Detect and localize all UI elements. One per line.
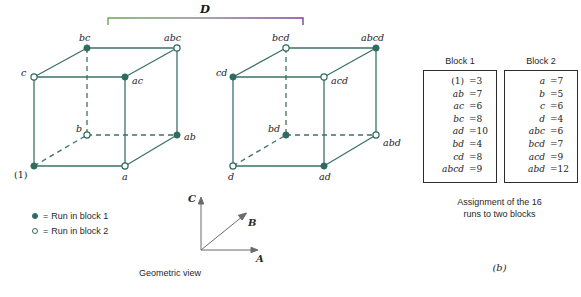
cube-abc-label-ab: ab <box>184 132 196 142</box>
block-2-eq-1: = <box>550 89 558 99</box>
cube-abcd-label-acd: acd <box>331 76 348 86</box>
vertex-ad <box>321 163 327 169</box>
cube-abc-label-bc: bc <box>79 33 90 43</box>
vertex-abc <box>174 45 180 51</box>
block-2-val-5: 7 <box>558 139 571 149</box>
block-1-term-3: bc <box>430 114 469 124</box>
block-2-eq-6: = <box>550 152 558 162</box>
block-2-term-0: a <box>511 76 550 86</box>
blocks-caption: Assignment of the 16 runs to two blocks <box>418 196 581 220</box>
axis-label-b: B <box>248 217 256 228</box>
cube-abcd-label-abd: abd <box>383 138 401 148</box>
block-1-val-2: 6 <box>477 101 490 111</box>
block-1-term-2: ac <box>430 101 469 111</box>
vertex-b <box>84 132 90 138</box>
block-1-row-5: bd = 4 <box>430 139 490 152</box>
cube-abc-label-one: (1) <box>14 170 27 180</box>
block-1-term-1: ab <box>430 89 469 99</box>
block-1-row-0: (1) = 3 <box>430 76 490 89</box>
cube-abcd-vertices <box>230 45 379 169</box>
block-1-term-4: ad <box>430 126 469 136</box>
block-1-title: Block 1 <box>423 56 497 66</box>
block-2-box: a = 7 b = 5 c = 6 d = 4 <box>504 70 578 183</box>
open-circle-icon <box>32 228 38 234</box>
block-1-eq-0: = <box>469 76 477 86</box>
block-1-eq-7: = <box>469 164 477 174</box>
vertex-a <box>122 163 128 169</box>
block-2-row-1: b = 5 <box>511 89 571 102</box>
block-1-term-0: (1) <box>430 76 469 86</box>
block-2-term-7: abd <box>511 164 550 174</box>
block-1-val-0: 3 <box>477 76 490 86</box>
cube-abc-label-a: a <box>122 172 128 182</box>
vertex-bcd <box>283 45 289 51</box>
block-1-row-4: ad = 10 <box>430 126 490 139</box>
cube-abc-label-ac: ac <box>132 76 143 86</box>
block-2-term-4: abc <box>511 126 550 136</box>
block-2-eq-5: = <box>550 139 558 149</box>
block-2-row-3: d = 4 <box>511 114 571 127</box>
block-1-eq-3: = <box>469 114 477 124</box>
cube-abc-label-b: b <box>76 124 82 134</box>
block-2-row-2: c = 6 <box>511 101 571 114</box>
block-2-val-0: 7 <box>558 76 571 86</box>
block-2-val-6: 9 <box>558 152 571 162</box>
legend: = Run in block 1 = Run in block 2 <box>32 208 108 238</box>
panel-letter: (b) <box>418 262 581 273</box>
block-1-eq-4: = <box>469 126 477 136</box>
figure-root: (1) a b ab c ac bc abc d ad bd abd cd ac… <box>0 0 581 297</box>
blocks-caption-line2: runs to two blocks <box>418 208 581 220</box>
block-2-val-3: 4 <box>558 114 571 124</box>
cube-abc-edges <box>34 48 177 166</box>
block-1-row-7: abcd = 9 <box>430 164 490 177</box>
cube-abc-label-abc: abc <box>164 33 181 43</box>
cube-abc-label-c: c <box>21 68 26 78</box>
axis-label-c: C <box>188 193 196 204</box>
block-2-val-2: 6 <box>558 101 571 111</box>
cube-abcd-edges <box>233 48 376 166</box>
cube-abcd-label-ad: ad <box>319 172 331 182</box>
vertex-ab <box>174 132 180 138</box>
axis-label-a: A <box>256 253 264 264</box>
legend-equals-1: = <box>43 211 48 221</box>
block-2-term-3: d <box>511 114 550 124</box>
block-1-eq-5: = <box>469 139 477 149</box>
block-1-row-3: bc = 8 <box>430 114 490 127</box>
vertex-c <box>31 74 37 80</box>
block-2-term-2: c <box>511 101 550 111</box>
vertex-d <box>230 163 236 169</box>
vertex-abcd <box>373 45 379 51</box>
cube-abc-vertices <box>31 45 180 169</box>
block-1-term-5: bd <box>430 139 469 149</box>
block-column-2: Block 2 a = 7 b = 5 c = 6 d <box>504 56 578 183</box>
legend-item-block2: = Run in block 2 <box>32 223 108 238</box>
block-2-term-6: acd <box>511 152 550 162</box>
block-2-val-7: 12 <box>558 164 571 174</box>
vertex-abd <box>373 132 379 138</box>
legend-equals-2: = <box>43 226 48 236</box>
block-2-val-4: 6 <box>558 126 571 136</box>
block-1-val-6: 8 <box>477 152 490 162</box>
block-1-box: (1) = 3 ab = 7 ac = 6 bc = 8 <box>423 70 497 183</box>
factor-d-label: D <box>200 2 210 16</box>
cube-abcd-label-cd: cd <box>216 68 227 78</box>
block-1-val-4: 10 <box>477 126 490 136</box>
cube-abcd-label-bcd: bcd <box>272 33 289 43</box>
block-2-row-7: abd = 12 <box>511 164 571 177</box>
block-2-eq-4: = <box>550 126 558 136</box>
block-2-term-5: bcd <box>511 139 550 149</box>
vertex-bc <box>84 45 90 51</box>
block-2-row-6: acd = 9 <box>511 152 571 165</box>
block-2-val-1: 5 <box>558 89 571 99</box>
block-1-row-6: cd = 8 <box>430 152 490 165</box>
block-1-val-3: 8 <box>477 114 490 124</box>
cube-abcd-label-abcd: abcd <box>361 33 384 43</box>
block-2-row-4: abc = 6 <box>511 126 571 139</box>
cube-abcd-label-bd: bd <box>268 124 280 134</box>
block-1-eq-6: = <box>469 152 477 162</box>
block-2-eq-2: = <box>550 101 558 111</box>
block-1-row-2: ac = 6 <box>430 101 490 114</box>
blocks-caption-line1: Assignment of the 16 <box>418 196 581 208</box>
vertex-ac <box>122 74 128 80</box>
filled-circle-icon <box>32 213 38 219</box>
